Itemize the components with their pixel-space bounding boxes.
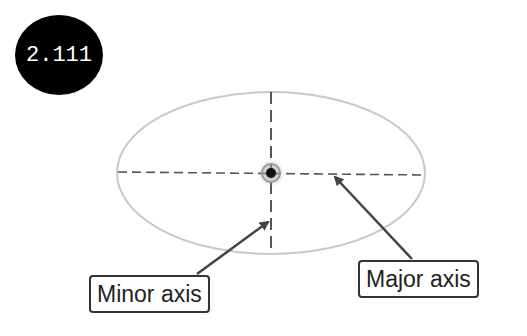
diagram-canvas: 2.111 Minor axis Major axis xyxy=(0,0,527,336)
minor-axis-label: Minor axis xyxy=(89,275,210,313)
center-point xyxy=(266,168,276,178)
major-axis-label: Major axis xyxy=(358,260,479,298)
minor-axis-arrow xyxy=(197,222,268,274)
figure-number-badge: 2.111 xyxy=(15,15,103,95)
